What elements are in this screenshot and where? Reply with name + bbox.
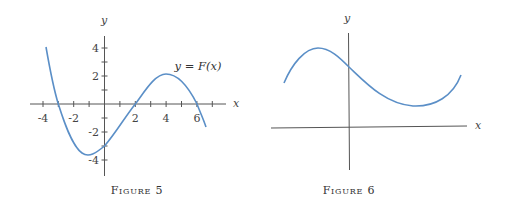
x-tick-label: 6: [193, 112, 200, 125]
x-tick-label: -2: [68, 112, 79, 125]
figure-caption: Figure 6: [323, 184, 376, 197]
x-tick-label: 2: [132, 112, 139, 125]
figure-6-plot: y x Figure 6: [260, 0, 508, 203]
y-axis: [349, 33, 350, 170]
y-tick-label: -2: [88, 126, 99, 139]
x-tick-label: -4: [38, 112, 49, 125]
x-axis-label: x: [233, 97, 240, 110]
figure-5: -4 -2 2 4 6 4 2 -2 -4 y x y = F(x) Figur…: [0, 0, 260, 203]
y-tick-label: -4: [88, 154, 99, 167]
figure-6: y x Figure 6: [260, 0, 508, 203]
y-tick-label: 2: [92, 70, 99, 83]
curve: [284, 48, 461, 106]
x-tick-label: 4: [163, 112, 170, 125]
curve-label: y = F(x): [174, 59, 222, 73]
y-axis-label: y: [343, 12, 351, 25]
figure-caption: Figure 5: [111, 184, 164, 197]
y-tick-label: 4: [92, 42, 99, 55]
y-axis-label: y: [100, 14, 108, 27]
x-axis: [271, 126, 467, 128]
figure-5-plot: -4 -2 2 4 6 4 2 -2 -4 y x y = F(x) Figur…: [0, 0, 260, 203]
x-axis-label: x: [475, 119, 482, 132]
